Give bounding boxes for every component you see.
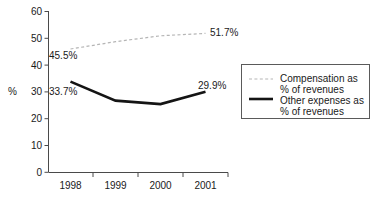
legend-item-1-line1: Other expenses as <box>280 95 364 106</box>
data-label-compensation-2001: 51.7% <box>210 27 238 38</box>
series-line-other-expenses <box>71 82 206 105</box>
y-tick-label-30: 30 <box>31 86 43 97</box>
x-tick-label-2001: 2001 <box>194 180 217 191</box>
data-label-other-2001: 29.9% <box>198 80 226 91</box>
chart-canvas: 60 50 40 30 20 10 0 % 1998 1999 2000 200… <box>0 0 373 206</box>
y-tick-label-50: 50 <box>31 33 43 44</box>
legend-item-0-line2: % of revenues <box>280 84 344 95</box>
legend: Compensation as % of revenues Other expe… <box>242 65 370 119</box>
legend-item-0-line1: Compensation as <box>280 73 358 84</box>
x-tick-label-2000: 2000 <box>149 180 172 191</box>
data-label-other-1998: 33.7% <box>49 86 77 97</box>
series-line-compensation <box>71 33 206 49</box>
y-tick-label-20: 20 <box>31 113 43 124</box>
y-tick-label-60: 60 <box>31 6 43 17</box>
legend-item-1-line2: % of revenues <box>280 106 344 117</box>
x-tick-label-1998: 1998 <box>59 180 82 191</box>
y-tick-label-10: 10 <box>31 140 43 151</box>
x-tick-label-1999: 1999 <box>104 180 127 191</box>
y-tick-label-0: 0 <box>36 167 42 178</box>
y-axis-title: % <box>8 86 17 97</box>
data-label-compensation-1998: 45.5% <box>49 50 77 61</box>
y-tick-label-40: 40 <box>31 60 43 71</box>
line-chart: 60 50 40 30 20 10 0 % 1998 1999 2000 200… <box>0 0 373 206</box>
